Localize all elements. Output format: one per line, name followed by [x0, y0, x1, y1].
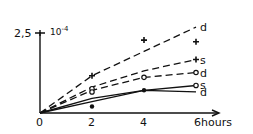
- data-point-filled-icon: [142, 88, 146, 92]
- y-top-label: 2,5: [14, 27, 32, 40]
- x-axis-label: hours: [201, 116, 232, 129]
- series-end-label-0: d: [200, 21, 207, 34]
- data-point-circle-icon: [194, 83, 198, 87]
- series-end-label-4: d: [200, 86, 207, 99]
- origin-label: 0: [36, 116, 43, 129]
- points-group: [89, 37, 199, 109]
- data-point-circle-icon: [90, 90, 94, 94]
- y-scale-label: 10-4: [50, 25, 69, 37]
- y-axis-arrow: [35, 30, 45, 36]
- series-line-0: [40, 27, 196, 113]
- series-group: [40, 27, 196, 113]
- chart: 2,5 10-4 0 2 4 6 hours dsdsd: [0, 0, 253, 134]
- series-line-1: [40, 60, 196, 114]
- data-point-star-icon: [141, 37, 147, 43]
- series-end-labels: dsdsd: [200, 21, 207, 99]
- series-line-3: [40, 86, 196, 114]
- x-tick-4: 4: [140, 116, 147, 129]
- data-point-star-icon: [193, 39, 199, 45]
- data-point-circle-icon: [194, 70, 198, 74]
- data-point-star-icon: [193, 57, 199, 63]
- series-end-label-1: s: [200, 54, 206, 67]
- data-point-circle-icon: [142, 75, 146, 79]
- data-point-filled-icon: [90, 104, 94, 108]
- x-tick-2: 2: [88, 116, 95, 129]
- x-tick-6: 6: [194, 116, 201, 129]
- series-end-label-2: d: [200, 67, 207, 80]
